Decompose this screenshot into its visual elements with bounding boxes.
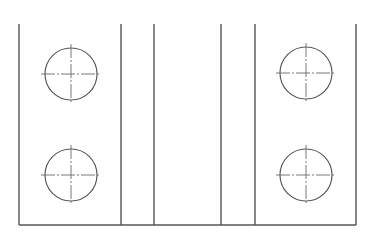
hole-bottom-right xyxy=(276,145,336,205)
inner-vertical-lines xyxy=(121,24,255,225)
plate-outline xyxy=(19,24,356,225)
hole-top-right xyxy=(276,43,336,103)
holes xyxy=(41,43,336,205)
hole-top-left xyxy=(41,44,101,104)
hole-bottom-left xyxy=(41,145,101,205)
technical-drawing xyxy=(0,0,375,240)
